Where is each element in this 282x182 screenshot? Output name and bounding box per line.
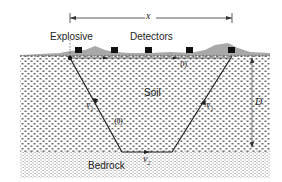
detectors-label: Detectors xyxy=(130,32,173,42)
soil-label: Soil xyxy=(144,88,161,98)
path-refracted-label: (ii) xyxy=(114,117,123,125)
depth-label: D xyxy=(255,97,262,107)
v1-left-label: v1 xyxy=(86,100,93,112)
v1-right-label: v1 xyxy=(206,100,213,112)
bedrock-label: Bedrock xyxy=(88,161,125,171)
v2-label: v2 xyxy=(143,154,150,166)
seismic-diagram xyxy=(0,0,282,182)
path-direct-label: (i) xyxy=(180,60,187,68)
distance-label: x xyxy=(146,11,150,21)
explosive-label: Explosive xyxy=(50,32,93,42)
soil-layer xyxy=(20,56,270,152)
